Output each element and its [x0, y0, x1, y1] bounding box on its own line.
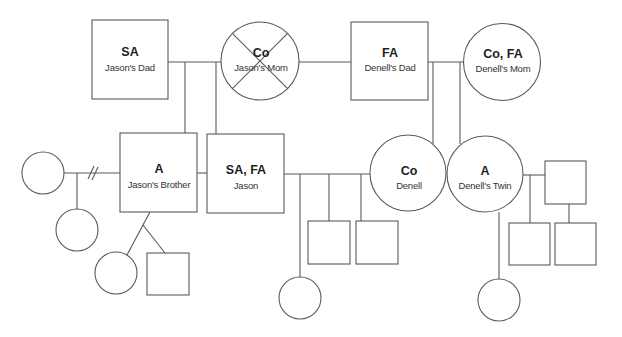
male-square	[92, 20, 168, 99]
person-code: SA, FA	[226, 163, 266, 177]
person-denells-twin[interactable]: A Denell's Twin	[447, 136, 523, 212]
person-label: Jason's Dad	[105, 62, 155, 73]
person-label: Denell	[396, 180, 422, 191]
genogram-canvas: SA Jason's Dad Co Jason's Mom FA Denell'…	[0, 0, 622, 337]
person-code: FA	[382, 46, 398, 60]
female-circle	[22, 152, 64, 194]
person-jason-denell-daughter[interactable]	[279, 277, 321, 319]
male-square	[545, 161, 586, 204]
person-code: Co	[253, 46, 270, 60]
female-circle	[95, 252, 137, 294]
person-twins-partner[interactable]	[545, 161, 586, 204]
person-brothers-ex-partner[interactable]	[22, 152, 64, 194]
person-jasons-mom[interactable]: Co Jason's Mom	[221, 22, 299, 100]
person-denells-mom[interactable]: Co, FA Denell's Mom	[464, 24, 541, 101]
male-square	[509, 223, 550, 265]
person-label: Denell's Mom	[476, 63, 531, 74]
female-circle	[279, 277, 321, 319]
person-brothers-twin-son[interactable]	[147, 253, 189, 295]
person-jason-denell-son-1[interactable]	[308, 221, 350, 264]
person-label: Denell's Twin	[459, 180, 512, 191]
person-brothers-twin-daughter[interactable]	[95, 252, 137, 294]
person-label: Denell's Dad	[364, 62, 415, 73]
person-twins-son-2[interactable]	[555, 223, 596, 265]
twin-line-daughter	[127, 225, 143, 255]
twin-line-son	[143, 225, 165, 253]
person-jasons-dad[interactable]: SA Jason's Dad	[92, 20, 168, 99]
female-circle	[56, 209, 98, 251]
person-twins-son-1[interactable]	[509, 223, 550, 265]
male-square	[555, 223, 596, 265]
person-brothers-child-with-ex[interactable]	[56, 209, 98, 251]
person-denell[interactable]: Co Denell	[370, 135, 446, 211]
male-square	[356, 221, 398, 264]
person-code: Co	[401, 164, 418, 178]
person-code: A	[480, 164, 489, 178]
male-square	[308, 221, 350, 264]
female-circle	[478, 279, 520, 321]
twin-stem-line	[143, 212, 150, 225]
male-square	[147, 253, 189, 295]
person-label: Jason	[234, 180, 258, 191]
person-code: A	[154, 162, 163, 176]
person-jasons-brother[interactable]: A Jason's Brother	[120, 133, 197, 212]
person-code: Co, FA	[483, 47, 523, 61]
male-square	[351, 22, 428, 100]
person-twins-daughter[interactable]	[478, 279, 520, 321]
person-label: Jason's Brother	[128, 179, 191, 190]
person-label: Jason's Mom	[234, 62, 288, 73]
person-denells-dad[interactable]: FA Denell's Dad	[351, 22, 428, 100]
genogram-diagram: SA Jason's Dad Co Jason's Mom FA Denell'…	[0, 0, 622, 337]
person-code: SA	[121, 45, 138, 59]
person-jason[interactable]: SA, FA Jason	[207, 134, 284, 213]
person-jason-denell-son-2[interactable]	[356, 221, 398, 264]
female-circle	[464, 24, 541, 101]
